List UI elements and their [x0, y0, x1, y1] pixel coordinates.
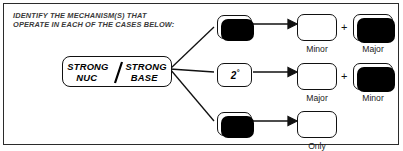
mechanism-label-2: 2°: [230, 70, 239, 81]
plus-operator-row-2: +: [341, 70, 347, 82]
product-box-3-only: [297, 111, 337, 138]
product-box-1-minor: [297, 14, 337, 41]
product-caption-1-minor: Minor: [294, 44, 340, 54]
product-caption-2-major: Major: [294, 93, 340, 103]
caption-line-1: IDENTIFY THE MECHANISM(S) THAT: [13, 11, 147, 20]
caption-line-2: OPERATE IN EACH OF THE CASES BELOW:: [13, 20, 174, 29]
plus-operator-row-1: +: [341, 21, 347, 33]
product-caption-2-minor: Minor: [350, 93, 396, 103]
mechanism-box-1: 1°: [217, 15, 252, 39]
mechanism-label-3: 3°: [230, 119, 239, 130]
reagent-box: STRONG STRONG NUC BASE: [62, 56, 172, 87]
product-caption-3-only: Only: [294, 141, 340, 151]
product-box-1-major: [353, 14, 393, 41]
instruction-caption: IDENTIFY THE MECHANISM(S) THAT OPERATE I…: [13, 11, 174, 30]
product-caption-1-major: Major: [350, 44, 396, 54]
reagent-line-1: STRONG STRONG: [67, 61, 166, 72]
product-box-2-minor: [353, 63, 393, 90]
mechanism-box-3: 3°: [217, 112, 252, 136]
diagram-frame: IDENTIFY THE MECHANISM(S) THAT OPERATE I…: [3, 3, 399, 145]
product-box-2-major: [297, 63, 337, 90]
mechanism-box-2: 2°: [217, 63, 252, 87]
reagent-line-2: NUC BASE: [76, 72, 157, 83]
mechanism-label-1: 1°: [230, 22, 239, 33]
